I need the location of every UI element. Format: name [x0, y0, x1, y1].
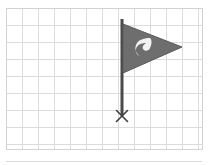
flag-figure-layer	[0, 0, 210, 165]
pennant-flag-icon	[123, 24, 182, 73]
flag-figure-svg	[0, 0, 210, 165]
drawing-canvas: Flag marker on graph paper ×	[0, 0, 210, 165]
